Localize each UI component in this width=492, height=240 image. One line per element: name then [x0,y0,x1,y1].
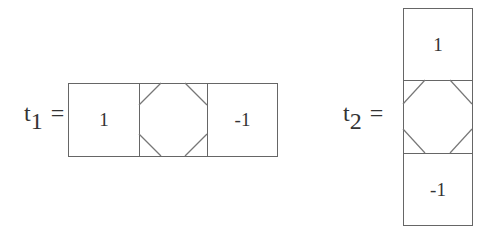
t1-cell-right: -1 [207,83,278,157]
t2-label: t2= [343,100,383,127]
t1-label: t1= [24,100,64,127]
t1-cell-left: 1 [68,83,140,157]
t2-label-base: t [343,100,350,126]
t2-label-subscript: 2 [350,108,362,134]
t1-octagon-corner-lines [139,83,207,156]
t2-equals-sign: = [370,100,384,126]
t2-octagon-corner-lines [403,80,472,153]
t2-cell-bottom: -1 [403,153,473,226]
t1-equals-sign: = [51,100,65,126]
t2-cell-top: 1 [403,8,473,81]
t1-label-subscript: 1 [31,108,43,134]
t1-label-base: t [24,100,31,126]
